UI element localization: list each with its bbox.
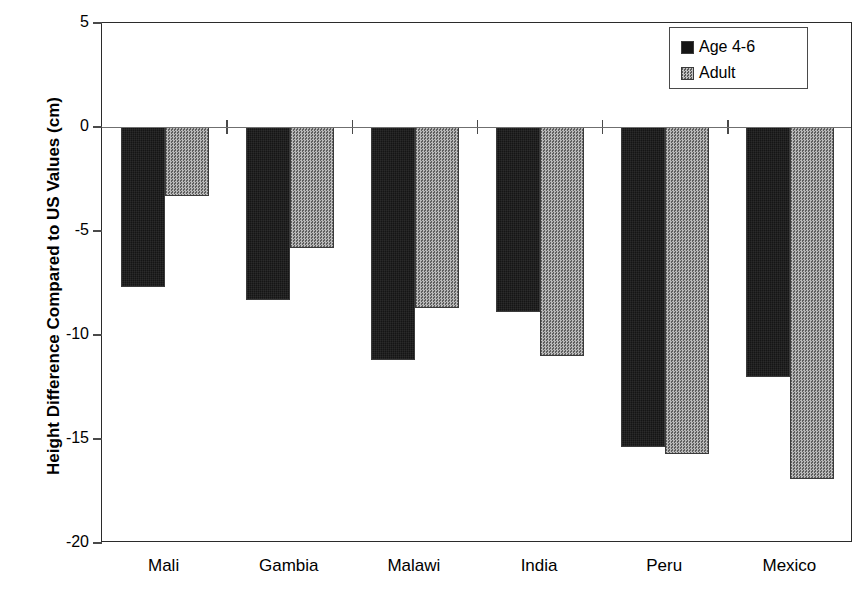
y-axis-tick — [93, 22, 102, 23]
legend: Age 4-6 Adult — [669, 27, 808, 89]
bar-india-age-4-6 — [496, 127, 540, 312]
x-axis-category-label: India — [469, 556, 609, 576]
legend-label-adult: Adult — [699, 65, 735, 81]
bar-india-adult — [540, 127, 584, 356]
bar-mali-adult — [165, 127, 209, 196]
bar-gambia-adult — [290, 127, 334, 248]
zero-line — [102, 127, 851, 128]
y-axis-title: Height Difference Compared to US Values … — [44, 26, 64, 546]
plot-area — [101, 22, 852, 542]
y-axis-tick-label: 5 — [27, 13, 89, 31]
bar-mali-age-4-6 — [121, 127, 165, 287]
legend-item-adult: Adult — [681, 61, 807, 85]
y-axis-tick — [93, 438, 102, 439]
y-axis-tick-label: -10 — [27, 325, 89, 343]
y-axis-tick-label: -20 — [27, 533, 89, 551]
y-axis-tick-label: -5 — [27, 221, 89, 239]
legend-swatch-age-4-6 — [681, 41, 694, 54]
y-axis-tick — [93, 126, 102, 127]
y-axis-tick — [93, 230, 102, 231]
legend-label-age-4-6: Age 4-6 — [699, 39, 755, 55]
legend-swatch-adult — [681, 67, 694, 80]
y-axis-tick-label: -15 — [27, 429, 89, 447]
y-axis-tick-label: 0 — [27, 117, 89, 135]
x-axis-category-label: Mexico — [719, 556, 859, 576]
y-axis-tick — [93, 542, 102, 543]
bar-mexico-adult — [790, 127, 834, 479]
x-axis-category-label: Gambia — [219, 556, 359, 576]
bar-malawi-age-4-6 — [371, 127, 415, 360]
bar-malawi-adult — [415, 127, 459, 308]
x-axis-category-label: Peru — [594, 556, 734, 576]
bar-gambia-age-4-6 — [246, 127, 290, 300]
x-axis-category-label: Malawi — [344, 556, 484, 576]
legend-item-age-4-6: Age 4-6 — [681, 35, 807, 59]
bar-peru-adult — [665, 127, 709, 454]
bar-chart: Height Difference Compared to US Values … — [0, 0, 863, 593]
y-axis-tick — [93, 334, 102, 335]
x-axis-category-label: Mali — [94, 556, 234, 576]
bar-peru-age-4-6 — [621, 127, 665, 447]
bar-mexico-age-4-6 — [746, 127, 790, 377]
